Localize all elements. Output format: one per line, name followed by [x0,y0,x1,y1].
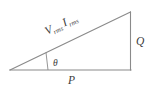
hypotenuse-label-group: V rms I rms [43,11,80,38]
label-angle-theta: θ [53,58,58,68]
label-reactive-power-q: Q [136,35,145,47]
angle-marker-line [46,53,48,71]
label-v-rms-subscript: rms [52,24,64,35]
label-real-power-p: P [67,74,75,86]
power-triangle-svg: V rms I rms Q P θ [0,0,155,90]
label-i-rms-subscript: rms [68,17,80,28]
power-triangle-diagram: V rms I rms Q P θ [0,0,155,90]
